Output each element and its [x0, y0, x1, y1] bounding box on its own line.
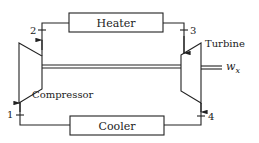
brayton-cycle-diagram: Heater Cooler Compressor Turbine 1 2 3 4… [0, 0, 259, 143]
pipe-2 [42, 23, 69, 56]
cooler-label: Cooler [99, 120, 137, 133]
state-3-label: 3 [190, 25, 196, 36]
work-output-label: wx [226, 60, 240, 75]
state-2-label: 2 [30, 25, 36, 36]
turbine-label: Turbine [205, 38, 245, 49]
compressor-label: Compressor [32, 89, 94, 100]
work-subscript: x [235, 66, 240, 75]
heater-label: Heater [97, 17, 137, 30]
state-1-label: 1 [7, 109, 13, 120]
pipe-3 [163, 23, 184, 54]
state-4-label: 4 [208, 111, 214, 122]
pipe-4 [164, 103, 201, 125]
pipe-1 [20, 102, 70, 125]
